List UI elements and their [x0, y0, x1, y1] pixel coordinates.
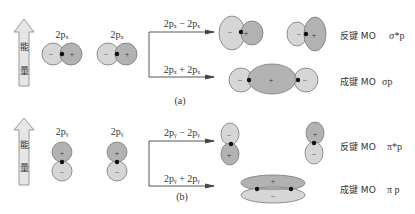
- energy-label-top: 能: [20, 41, 29, 52]
- pi-bonding-orbital: + −: [241, 175, 305, 203]
- energy-label-bottom: 量: [20, 163, 29, 173]
- svg-text:−: −: [60, 168, 65, 177]
- svg-text:−: −: [104, 50, 109, 59]
- antibonding-symbol: π*p: [387, 141, 402, 152]
- caption-b: (b): [176, 191, 188, 203]
- ao-right-label: 2pₓ: [111, 29, 124, 40]
- lower-combo-label: 2pᵧ + 2pᵧ: [164, 173, 200, 185]
- svg-text:−: −: [297, 30, 302, 39]
- energy-label-bottom: 量: [20, 66, 29, 76]
- svg-text:+: +: [125, 50, 130, 59]
- p-orbital-right: − +: [97, 43, 137, 65]
- py-orbital-right: + −: [107, 142, 127, 181]
- lower-combo-label: 2pₓ + 2pₓ: [164, 64, 201, 75]
- svg-text:−: −: [228, 28, 233, 37]
- py-orbital-left: + −: [52, 142, 72, 181]
- svg-text:+: +: [312, 31, 317, 40]
- sigma-star-orbital-1: − +: [219, 16, 263, 50]
- mo-diagram: 能 量 2pₓ − + 2pₓ − + 2pₓ − 2pₓ: [0, 0, 415, 214]
- svg-text:+: +: [244, 29, 249, 38]
- svg-text:+: +: [271, 177, 276, 186]
- svg-text:−: −: [238, 76, 243, 85]
- svg-text:+: +: [60, 149, 65, 158]
- ao-left-label: 2pᵧ: [56, 126, 69, 138]
- caption-a: (a): [174, 95, 185, 107]
- ao-left-label: 2pₓ: [56, 29, 69, 40]
- energy-arrow-icon: 能 量: [14, 118, 34, 185]
- svg-text:+: +: [313, 130, 318, 139]
- svg-text:−: −: [49, 50, 54, 59]
- p-orbital-left: − +: [42, 43, 82, 65]
- svg-text:−: −: [303, 76, 308, 85]
- upper-combo-label: 2pₓ − 2pₓ: [164, 18, 201, 29]
- sigma-star-orbital-2: − +: [287, 17, 326, 51]
- panel-b: 能 量 2pᵧ + − 2pᵧ + − 2pᵧ − 2pᵧ 2pᵧ + 2pᵧ: [14, 118, 402, 203]
- svg-text:+: +: [227, 151, 232, 160]
- ao-right-label: 2pᵧ: [111, 126, 124, 138]
- svg-text:+: +: [115, 149, 120, 158]
- panel-a: 能 量 2pₓ − + 2pₓ − + 2pₓ − 2pₓ: [14, 16, 404, 107]
- upper-combo-label: 2pᵧ − 2pᵧ: [164, 127, 200, 139]
- pi-star-orbital-1: − +: [221, 123, 239, 165]
- antibonding-label: 反键 MO: [340, 30, 376, 41]
- sigma-bonding-orbital: − + −: [229, 64, 318, 94]
- antibonding-symbol: σ*p: [389, 30, 404, 41]
- svg-text:+: +: [70, 50, 75, 59]
- pi-star-orbital-2: + −: [305, 122, 324, 164]
- energy-arrow-icon: 能 量: [14, 19, 34, 86]
- bonding-symbol: π p: [387, 184, 400, 195]
- svg-text:−: −: [227, 131, 232, 140]
- svg-text:−: −: [271, 192, 276, 201]
- svg-text:−: −: [312, 150, 317, 159]
- bonding-symbol: σp: [382, 76, 392, 87]
- svg-text:+: +: [269, 76, 274, 85]
- antibonding-label: 反键 MO: [340, 141, 376, 152]
- energy-label-top: 能: [20, 139, 29, 150]
- bonding-label: 成键 MO: [340, 184, 376, 195]
- svg-text:−: −: [115, 168, 120, 177]
- bonding-label: 成键 MO: [340, 76, 376, 87]
